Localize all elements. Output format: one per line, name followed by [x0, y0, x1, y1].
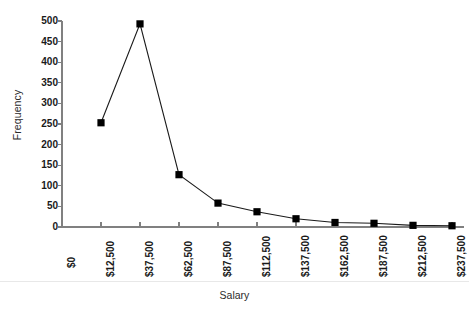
x-axis-tick-labels: $0$12,500$37,500$62,500$87,500$112,500$1…	[0, 0, 469, 312]
x-axis-tick-label: $162,500	[340, 235, 350, 277]
x-axis-tick-label: $187,500	[379, 235, 389, 277]
x-axis-tick-label: $112,500	[262, 236, 272, 277]
x-axis-title: Salary	[0, 289, 469, 301]
x-axis-tick-label: $12,500	[106, 241, 116, 277]
x-axis-tick-label: $137,500	[301, 235, 311, 277]
x-axis-tick-label: $62,500	[184, 241, 194, 277]
salary-frequency-chart: Frequency 050100150200250300350400450500…	[0, 0, 469, 312]
x-axis-tick-label: $0	[67, 257, 77, 268]
x-axis-tick-label: $87,500	[223, 241, 233, 277]
footer-divider	[0, 281, 469, 282]
x-axis-title-text: Salary	[220, 289, 250, 301]
x-axis-tick-label: $237,500	[457, 235, 467, 277]
x-axis-tick-label: $212,500	[418, 235, 428, 277]
x-axis-tick-label: $37,500	[145, 241, 155, 277]
